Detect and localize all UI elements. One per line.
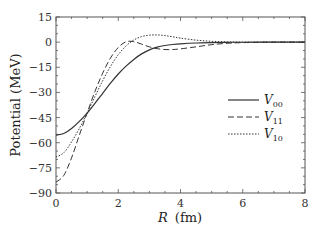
y-tick-label: −45	[29, 112, 52, 125]
y-tick-label: −15	[29, 61, 52, 74]
y-tick-label: 0	[45, 36, 52, 49]
y-tick-label: −60	[29, 137, 52, 150]
y-axis-label: Potential (MeV)	[8, 53, 23, 156]
x-tick-label: 8	[302, 197, 309, 210]
legend: V00V11V10	[228, 93, 283, 143]
series-lines	[56, 35, 305, 182]
x-tick-label: 0	[53, 197, 60, 210]
legend-label: V00	[264, 93, 283, 109]
legend-label: V11	[264, 110, 283, 126]
y-tick-labels: 150−15−30−45−60−75−90	[29, 11, 52, 200]
y-tick-label: 15	[38, 11, 52, 24]
x-tick-label: 2	[115, 197, 122, 210]
potential-chart: 150−15−30−45−60−75−90 02468 V00V11V10 Po…	[0, 0, 320, 237]
x-axis-label: R (fm)	[157, 210, 202, 225]
x-axis-variable: R	[157, 210, 168, 225]
x-tick-label: 4	[177, 197, 184, 210]
y-tick-label: −90	[29, 187, 52, 200]
x-tick-label: 6	[239, 197, 246, 210]
x-tick-labels: 02468	[53, 197, 309, 210]
legend-label: V10	[264, 127, 283, 143]
y-tick-label: −30	[29, 86, 52, 99]
y-tick-label: −75	[29, 162, 52, 175]
x-axis-unit: (fm)	[175, 210, 202, 225]
